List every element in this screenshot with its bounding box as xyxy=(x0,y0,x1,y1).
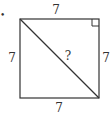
top-side-label: 7 xyxy=(52,3,60,17)
bottom-side-label: 7 xyxy=(55,101,63,113)
right-angle-icon xyxy=(92,19,99,26)
right-side-label: 7 xyxy=(102,51,110,65)
diagonal-line xyxy=(20,19,99,98)
bullet: • xyxy=(0,10,5,20)
left-side-label: 7 xyxy=(8,51,16,65)
diagonal-label: ? xyxy=(65,49,71,63)
square-diagonal-diagram: • 7 7 7 7 ? xyxy=(0,0,111,113)
